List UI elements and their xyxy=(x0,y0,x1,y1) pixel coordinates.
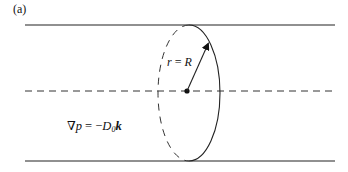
radius-value: R xyxy=(184,55,191,69)
unit-vector-k: k xyxy=(115,119,121,133)
equals-sign: = xyxy=(172,55,185,69)
equals-minus: = − xyxy=(82,119,102,133)
panel-label: (a) xyxy=(13,2,26,17)
cross-section-front-half xyxy=(189,25,220,161)
cross-section-back-half xyxy=(158,25,189,161)
pipe-flow-diagram xyxy=(0,0,348,172)
radius-label: r = R xyxy=(167,55,192,70)
nabla-symbol: ∇ xyxy=(67,119,76,133)
pressure-gradient-label: ∇p = −D0k xyxy=(67,118,122,134)
